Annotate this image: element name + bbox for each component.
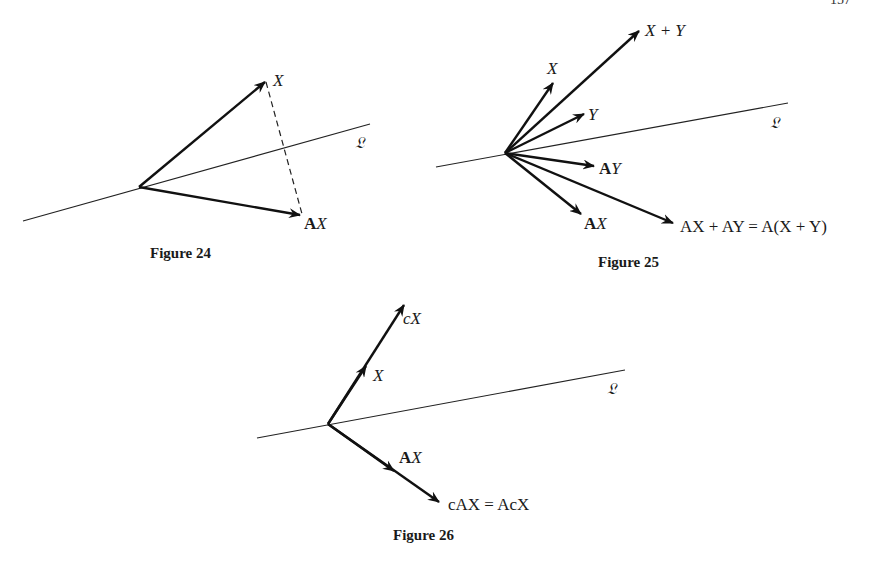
figure-26: cX X AX cAX = AcX 𝔏 Figure 26	[257, 305, 625, 543]
line-l	[257, 370, 625, 438]
figure-24: X AX 𝔏 Figure 24	[23, 71, 370, 261]
vector-ax-plus-ay	[505, 153, 673, 223]
label-x-plus-y: X + Y	[644, 21, 686, 40]
page-number: 157	[830, 0, 851, 7]
caption-figure-26: Figure 26	[393, 527, 454, 543]
vector-ax	[328, 424, 394, 471]
label-ay: AY	[599, 159, 622, 178]
label-line-l: 𝔏	[607, 379, 618, 398]
vector-ax	[139, 187, 300, 215]
vector-x	[505, 83, 553, 153]
label-line-l: 𝔏	[355, 133, 366, 152]
line-l	[436, 103, 788, 167]
label-ax: AX	[304, 214, 327, 233]
figures-canvas: 157 X AX 𝔏 Figure 24 X + Y X Y AY AX AX …	[0, 0, 874, 562]
label-ax: AX	[399, 448, 422, 467]
vector-x	[328, 366, 366, 424]
caption-figure-25: Figure 25	[598, 254, 659, 270]
label-ax-plus-ay-equals: AX + AY = A(X + Y)	[680, 217, 827, 236]
label-cx: cX	[403, 309, 422, 328]
label-y: Y	[588, 105, 599, 124]
label-cax-equals-acx: cAX = AcX	[448, 495, 529, 514]
caption-figure-24: Figure 24	[150, 245, 211, 261]
label-x: X	[372, 366, 384, 385]
figure-25: X + Y X Y AY AX AX + AY = A(X + Y) 𝔏 Fig…	[436, 21, 827, 270]
label-ax: AX	[584, 214, 607, 233]
label-x: X	[272, 71, 284, 90]
label-x: X	[546, 59, 558, 78]
vector-x-plus-y	[505, 31, 639, 153]
label-line-l: 𝔏	[770, 113, 781, 132]
